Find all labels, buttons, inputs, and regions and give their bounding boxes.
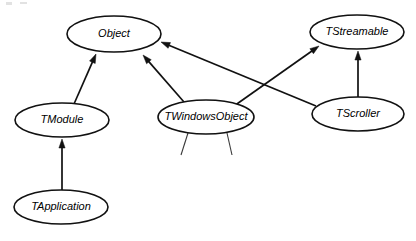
edge-twindowsobject-to-object [143, 55, 184, 102]
stubs-layer [181, 133, 232, 155]
stub-twindowsobject-right [227, 133, 232, 155]
edge-shaft [147, 60, 184, 102]
edge-twindowsobject-to-tstreamable [234, 46, 319, 106]
node-label-tstreamable: TStreamable [326, 25, 389, 37]
arrow-head-icon [310, 46, 319, 54]
node-tmodule[interactable]: TModule [15, 103, 109, 137]
edge-shaft [167, 44, 316, 106]
scan-artifact-mark [6, 2, 12, 5]
node-tstreamable[interactable]: TStreamable [310, 15, 404, 49]
node-tapplication[interactable]: TApplication [14, 190, 108, 224]
arrow-head-icon [59, 139, 65, 148]
node-twindowsobject[interactable]: TWindowsObject [158, 100, 254, 134]
edge-tscroller-to-object [161, 42, 316, 106]
nodes-layer: ObjectTStreamableTModuleTWindowsObjectTS… [14, 15, 404, 224]
node-label-tmodule: TModule [41, 113, 84, 125]
arrow-head-icon [90, 54, 96, 63]
class-hierarchy-diagram: ObjectTStreamableTModuleTWindowsObjectTS… [0, 0, 416, 241]
scan-artifact-mark [20, 2, 27, 4]
edge-tmodule-to-object [74, 54, 96, 104]
diagram-root: ObjectTStreamableTModuleTWindowsObjectTS… [0, 0, 416, 241]
node-label-object: Object [98, 27, 131, 39]
arrow-head-icon [161, 42, 171, 48]
node-object[interactable]: Object [67, 16, 161, 52]
node-label-twindowsobject: TWindowsObject [164, 110, 248, 122]
arrow-head-icon [355, 51, 361, 60]
node-label-tapplication: TApplication [31, 200, 91, 212]
node-tscroller[interactable]: TScroller [312, 97, 404, 131]
edge-tscroller-to-tstreamable [355, 51, 361, 97]
stub-twindowsobject-left [181, 133, 188, 155]
node-label-tscroller: TScroller [336, 107, 381, 119]
edge-shaft [74, 60, 93, 104]
edge-tapplication-to-tmodule [59, 139, 65, 190]
